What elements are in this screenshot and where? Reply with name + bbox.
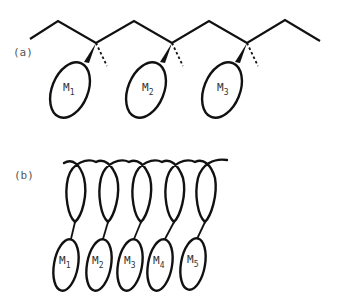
- helical-backbone: [64, 160, 227, 222]
- pendant-group-m1: M1: [42, 56, 97, 123]
- wedge-bond: [160, 43, 172, 63]
- stem: [134, 222, 141, 239]
- hashed-bond: [96, 43, 107, 66]
- pendant-group-m5: M5: [177, 236, 210, 291]
- hashed-bond: [247, 43, 258, 66]
- pendant-label: M2: [142, 81, 154, 97]
- pendant-label: M3: [124, 254, 136, 270]
- diagram-canvas: (a) M1 M2: [0, 0, 339, 302]
- stereo-center-3: [235, 43, 258, 66]
- stem: [103, 222, 108, 239]
- stem: [197, 222, 205, 239]
- panel-a-label: (a): [13, 46, 33, 59]
- stem: [71, 222, 75, 239]
- pendant-group-m1: M1: [50, 237, 83, 292]
- zigzag-backbone: [30, 20, 320, 43]
- wedge-bond: [84, 43, 96, 63]
- pendant-group-m3: M3: [194, 56, 249, 123]
- pendant-group-m2: M2: [118, 56, 173, 123]
- pendant-label: M1: [63, 81, 75, 97]
- wedge-bond: [235, 43, 247, 63]
- pendant-label: M2: [92, 254, 104, 270]
- pendant-group-m4: M4: [144, 237, 177, 292]
- pendant-group-m2: M2: [83, 237, 116, 292]
- stereo-center-1: [84, 43, 107, 66]
- stereo-center-2: [160, 43, 183, 66]
- stem: [165, 222, 174, 239]
- panel-b-label: (b): [14, 169, 34, 182]
- pendant-label: M4: [153, 254, 165, 270]
- pendant-label: M3: [217, 81, 229, 97]
- pendant-label: M5: [187, 253, 199, 269]
- hashed-bond: [172, 43, 183, 66]
- pendant-group-m3: M3: [114, 237, 147, 292]
- panel-a: (a) M1 M2: [13, 20, 320, 124]
- panel-b: (b) M1 M2 M3: [14, 160, 227, 293]
- pendant-label: M1: [59, 254, 71, 270]
